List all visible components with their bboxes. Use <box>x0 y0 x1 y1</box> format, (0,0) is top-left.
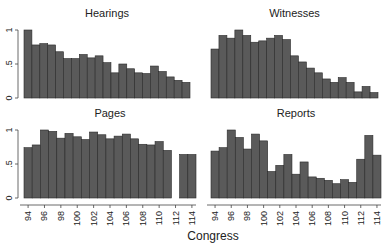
bar <box>87 58 95 98</box>
x-tick-label: 102 <box>89 211 99 226</box>
bar <box>40 44 48 98</box>
bar <box>127 69 135 98</box>
bar <box>219 148 227 198</box>
bar <box>24 148 32 198</box>
bar <box>65 133 73 198</box>
bar <box>174 80 182 98</box>
bar <box>314 73 322 98</box>
bar <box>243 149 251 198</box>
bar <box>251 42 259 98</box>
x-tick-label: 104 <box>291 211 301 226</box>
bar <box>291 56 299 98</box>
panel-title-witnesses: Witnesses <box>269 7 320 19</box>
bar <box>73 137 81 198</box>
bar <box>260 141 268 198</box>
x-tick-label: 98 <box>56 211 66 221</box>
bar <box>57 138 65 198</box>
bar <box>349 182 357 198</box>
bar <box>24 30 32 98</box>
bar <box>71 59 79 98</box>
x-tick-label: 102 <box>275 211 285 226</box>
bar <box>106 139 114 198</box>
bar <box>338 78 346 98</box>
panel-hearings: Hearings 0.51 <box>4 7 190 101</box>
bar <box>211 49 219 98</box>
x-tick-label: 104 <box>105 211 115 226</box>
bar <box>135 73 143 98</box>
y-tick-label: .5 <box>4 160 14 168</box>
bar <box>227 130 235 198</box>
panel-title-reports: Reports <box>277 107 316 119</box>
bar <box>95 56 103 98</box>
panel-title-pages: Pages <box>94 107 126 119</box>
bar <box>259 41 267 98</box>
bar <box>182 82 190 98</box>
bar <box>227 38 235 98</box>
x-tick-label: 106 <box>121 211 131 226</box>
bar <box>147 145 155 198</box>
bar <box>155 142 163 198</box>
bar <box>292 174 300 198</box>
x-tick-label: 112 <box>171 211 181 225</box>
bar <box>40 130 48 198</box>
bar <box>284 154 292 198</box>
bar <box>298 62 306 98</box>
bar <box>56 52 64 98</box>
bar <box>373 155 381 198</box>
bar <box>365 135 373 198</box>
bar <box>357 159 365 198</box>
bar <box>49 131 57 198</box>
y-tick-label: 1 <box>4 27 14 32</box>
bar <box>306 68 314 98</box>
x-tick-label: 110 <box>340 211 350 225</box>
bar <box>322 79 330 98</box>
bar <box>324 180 332 198</box>
x-axis-label: Congress <box>187 229 238 243</box>
bar <box>150 66 158 98</box>
x-tick-label: 114 <box>187 211 197 225</box>
x-tick-label: 114 <box>372 211 382 225</box>
bar <box>330 82 338 98</box>
bar <box>211 151 219 198</box>
bar <box>341 180 349 198</box>
bar <box>158 71 166 98</box>
panel-witnesses: Witnesses <box>211 7 378 98</box>
bar <box>139 144 147 198</box>
bar <box>308 177 316 198</box>
bar <box>362 86 370 98</box>
bar <box>332 184 340 198</box>
y-tick-label: 0 <box>4 195 14 200</box>
bar <box>163 150 171 198</box>
bar <box>180 154 188 198</box>
bar <box>114 136 122 198</box>
y-tick-label: 1 <box>4 127 14 132</box>
panel-title-hearings: Hearings <box>85 7 130 19</box>
x-tick-label: 108 <box>138 211 148 226</box>
bar <box>283 40 291 98</box>
bar <box>32 45 40 98</box>
panel-reports: Reports 949698100102104106108110112114 <box>207 107 382 226</box>
bar <box>119 64 127 98</box>
bar <box>98 135 106 198</box>
panel-pages: Pages 0.51949698100102104106108110112114 <box>4 107 197 226</box>
bar <box>251 134 259 198</box>
bar <box>275 35 283 98</box>
bar <box>316 178 324 198</box>
bar <box>90 132 98 198</box>
bar <box>346 82 354 98</box>
bar <box>122 134 130 198</box>
bar <box>64 59 72 98</box>
x-tick-label: 94 <box>210 211 220 221</box>
y-tick-label: 0 <box>4 95 14 100</box>
bar <box>81 140 89 198</box>
bar <box>370 93 378 98</box>
x-tick-label: 96 <box>39 211 49 221</box>
x-tick-label: 100 <box>259 211 269 226</box>
bar <box>111 73 119 98</box>
x-tick-label: 98 <box>242 211 252 221</box>
bar <box>243 35 251 98</box>
bar <box>32 145 40 198</box>
bar <box>79 54 87 98</box>
x-tick-label: 112 <box>356 211 366 225</box>
x-tick-label: 110 <box>154 211 164 225</box>
